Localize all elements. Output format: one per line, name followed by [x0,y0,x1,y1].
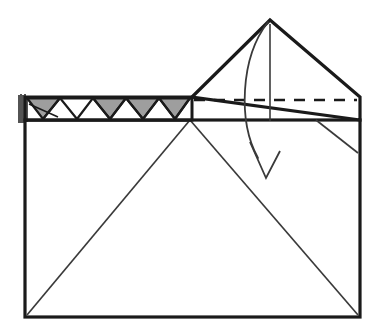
paper-rectangle [25,120,360,317]
pleated-band [25,97,192,120]
origami-figure-svg [0,0,372,331]
origami-diagram [0,0,372,331]
